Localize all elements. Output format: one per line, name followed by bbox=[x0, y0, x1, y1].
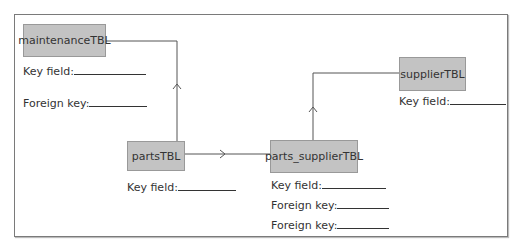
partssupplier-foreign-key-1: Foreign key: bbox=[271, 198, 389, 212]
table-name: parts_supplierTBL bbox=[265, 150, 363, 163]
connector-maintenance-parts bbox=[105, 41, 177, 141]
maintenance-key-field: Key field: bbox=[23, 64, 146, 78]
maintenance-foreign-key: Foreign key: bbox=[23, 96, 147, 110]
key-field-blank[interactable] bbox=[450, 94, 506, 105]
foreign-key-blank[interactable] bbox=[337, 218, 389, 229]
field-label: Foreign key: bbox=[271, 219, 337, 232]
key-field-blank[interactable] bbox=[322, 178, 386, 189]
parts-key-field: Key field: bbox=[127, 180, 236, 194]
table-parts[interactable]: partsTBL bbox=[127, 141, 185, 171]
table-supplier[interactable]: supplierTBL bbox=[399, 57, 466, 91]
table-maintenance[interactable]: maintenanceTBL bbox=[23, 24, 106, 57]
table-name: supplierTBL bbox=[400, 68, 464, 81]
table-parts-supplier[interactable]: parts_supplierTBL bbox=[270, 140, 358, 173]
table-name: maintenanceTBL bbox=[18, 34, 110, 47]
supplier-key-field: Key field: bbox=[399, 94, 506, 108]
key-field-blank[interactable] bbox=[74, 64, 146, 75]
key-field-blank[interactable] bbox=[178, 180, 236, 191]
foreign-key-blank[interactable] bbox=[337, 198, 389, 209]
table-name: partsTBL bbox=[132, 150, 181, 163]
field-label: Foreign key: bbox=[271, 199, 337, 212]
field-label: Key field: bbox=[127, 181, 178, 194]
foreign-key-blank[interactable] bbox=[89, 96, 147, 107]
partssupplier-key-field: Key field: bbox=[271, 178, 386, 192]
connector-partssupplier-supplier bbox=[313, 73, 399, 140]
field-label: Key field: bbox=[271, 179, 322, 192]
field-label: Key field: bbox=[399, 95, 450, 108]
field-label: Key field: bbox=[23, 65, 74, 78]
partssupplier-foreign-key-2: Foreign key: bbox=[271, 218, 389, 232]
field-label: Foreign key: bbox=[23, 97, 89, 110]
